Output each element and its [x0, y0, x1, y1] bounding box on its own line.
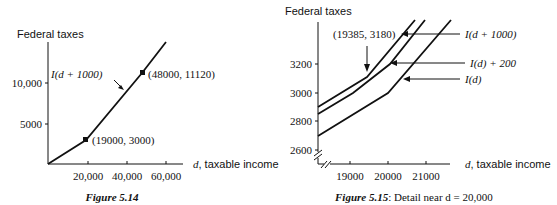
point-48000-11120 [140, 70, 145, 75]
xtick-20000: 20000 [374, 170, 402, 182]
ytick-3200: 3200 [290, 58, 313, 70]
ytick-2600: 2600 [290, 144, 313, 156]
xtick-19000: 19000 [336, 170, 364, 182]
point-a-label: (19000, 3000) [92, 134, 155, 147]
point-b-label: (48000, 11120) [148, 68, 215, 81]
ylabel: Federal taxes [285, 5, 352, 17]
ytick-10000: 10,000 [12, 77, 43, 89]
legend-i-d-plus-200: I(d) + 200 [469, 57, 516, 70]
xtick-21000: 21000 [412, 170, 440, 182]
intersection-label: (19385, 3180) [333, 28, 396, 41]
point-19000-3000 [83, 137, 88, 142]
caption: Figure 5.15: Detail near d = 20,000 [334, 191, 493, 203]
legend-i-d-plus-1000: I(d + 1000) [464, 28, 517, 41]
xlabel: d, taxable income [193, 158, 279, 170]
xtick-20000: 20,000 [73, 170, 104, 182]
figures-canvas: Federal taxes 10,000 5000 20,000 40,000 … [0, 0, 557, 205]
ylabel: Federal taxes [17, 28, 84, 40]
ytick-5000: 5000 [20, 118, 43, 130]
ytick-3000: 3000 [290, 87, 313, 99]
curve-label: I(d + 1000) [50, 68, 103, 81]
ytick-2800: 2800 [290, 115, 313, 127]
xlabel: d, taxable income [465, 158, 551, 170]
legend-i-d: I(d) [464, 73, 482, 86]
caption: Figure 5.14 [84, 191, 139, 203]
xtick-60000: 60,000 [151, 170, 182, 182]
figure-15 [314, 20, 465, 168]
xtick-40000: 40,000 [112, 170, 143, 182]
